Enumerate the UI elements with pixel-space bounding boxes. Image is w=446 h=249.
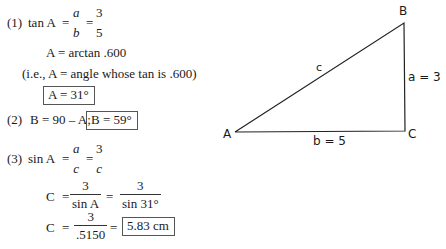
side-label-c: c — [316, 62, 322, 73]
vertex-label-A: A — [223, 128, 231, 140]
vertex-label-C: C — [408, 128, 416, 140]
side-label-b: b = 5 — [313, 135, 346, 147]
right-triangle-diagram — [0, 0, 446, 249]
triangle-outline — [235, 23, 405, 132]
side-label-a: a = 3 — [408, 71, 441, 83]
vertex-label-B: B — [399, 5, 407, 17]
